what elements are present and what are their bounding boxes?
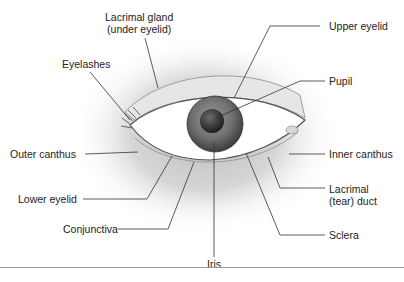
label-lacrimal-gland-line2: (under eyelid): [105, 23, 173, 35]
label-sclera: Sclera: [329, 229, 359, 241]
bottom-divider: [0, 267, 404, 268]
label-iris: Iris: [207, 258, 221, 270]
label-conjunctiva: Conjunctiva: [63, 223, 118, 235]
label-eyelashes: Eyelashes: [62, 58, 110, 70]
label-lacrimal-duct: Lacrimal (tear) duct: [329, 183, 377, 207]
label-lacrimal-gland-line1: Lacrimal gland: [105, 11, 173, 23]
label-lacrimal-duct-line2: (tear) duct: [329, 195, 377, 207]
label-pupil: Pupil: [329, 75, 352, 87]
label-lacrimal-gland: Lacrimal gland (under eyelid): [105, 11, 173, 35]
label-upper-eyelid: Upper eyelid: [329, 20, 388, 32]
pupil-shape: [200, 109, 224, 133]
label-inner-canthus: Inner canthus: [329, 148, 393, 160]
label-lower-eyelid: Lower eyelid: [18, 193, 77, 205]
label-lacrimal-duct-line1: Lacrimal: [329, 183, 377, 195]
label-outer-canthus: Outer canthus: [10, 148, 76, 160]
